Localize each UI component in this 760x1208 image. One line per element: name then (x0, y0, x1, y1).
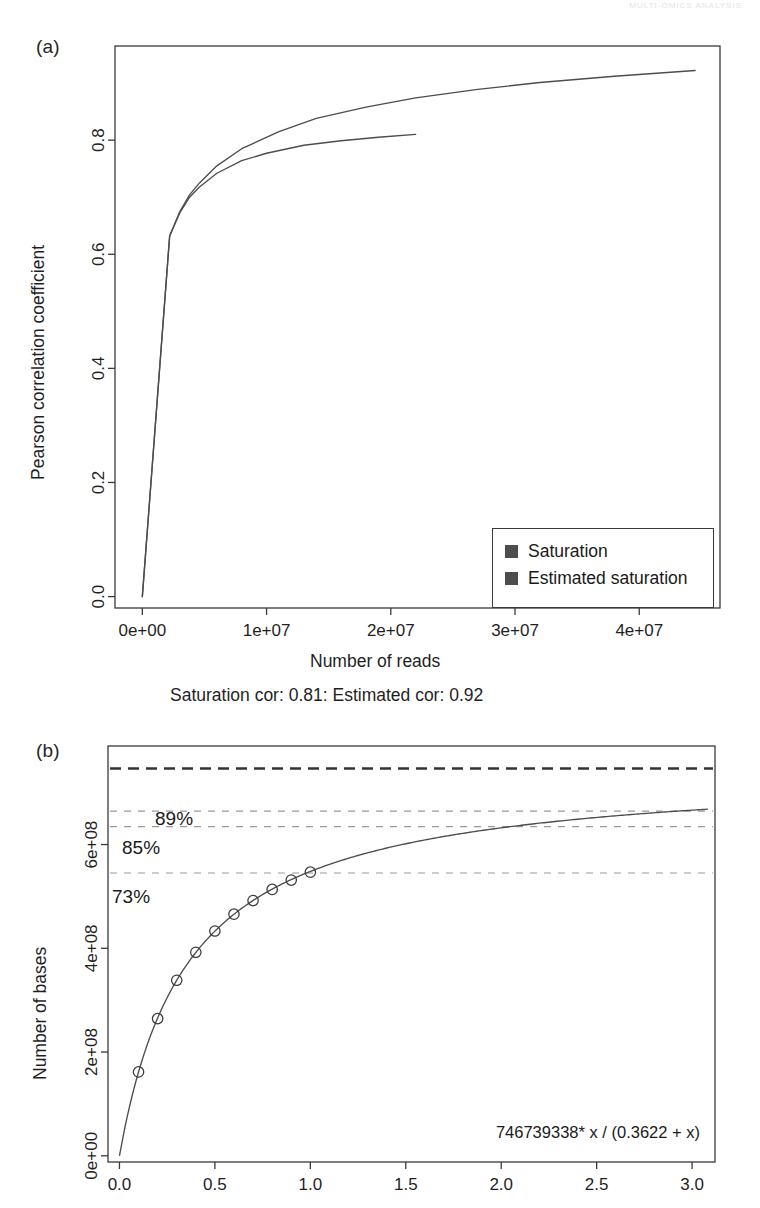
legend-swatch-saturation (505, 545, 518, 558)
panel-b-x-tick-label: 3.0 (680, 1175, 704, 1194)
panel-a-y-tick-label: 0.0 (90, 585, 109, 609)
panel-a-x-tick-label: 2e+07 (367, 621, 415, 640)
panel-b-curve-origin-segment (119, 1128, 124, 1156)
panel-b-axes-box (108, 746, 715, 1162)
legend-item-saturation: Saturation (505, 538, 699, 565)
panel-b-hline-label-89pct: 89% (155, 808, 193, 829)
legend-label-saturation: Saturation (528, 543, 608, 561)
panel-a-x-tick-label: 4e+07 (615, 621, 663, 640)
panel-b-formula-label: 746739338* x / (0.3622 + x) (496, 1123, 700, 1141)
panel-a-plot: 0e+001e+072e+073e+074e+070.00.20.40.60.8 (0, 0, 760, 718)
panel-b-y-tick-label: 4e+08 (83, 924, 102, 972)
panel-a-y-tick-label: 0.8 (90, 128, 109, 152)
panel-b-y-tick-label: 2e+08 (83, 1028, 102, 1076)
panel-b-y-tick-label: 6e+08 (83, 821, 102, 869)
panel-a-axes-box (115, 46, 720, 608)
panel-b-hline-label-73pct: 73% (112, 886, 150, 907)
panel-b-x-tick-label: 0.5 (203, 1175, 227, 1194)
panel-b-x-tick-label: 2.5 (585, 1175, 609, 1194)
panel-a-legend: Saturation Estimated saturation (492, 528, 714, 608)
panel-a-y-tick-label: 0.6 (90, 242, 109, 266)
panel-b-x-tick-label: 2.0 (489, 1175, 513, 1194)
legend-label-estimated-saturation: Estimated saturation (528, 570, 688, 588)
panel-a-x-tick-label: 0e+00 (118, 621, 166, 640)
figure-root: MULTI-OMICS ANALYSIS (a) Pearson correla… (0, 0, 760, 1208)
panel-b-hline-label-85pct: 85% (122, 837, 160, 858)
legend-swatch-estimated-saturation (505, 572, 518, 585)
panel-b-fitted-curve (125, 809, 708, 1128)
panel-b-y-tick-label: 0e+00 (83, 1132, 102, 1180)
legend-item-estimated-saturation: Estimated saturation (505, 565, 699, 592)
panel-b-x-tick-label: 0.0 (108, 1175, 132, 1194)
panel-b: (b) Number of bases 89%85%73%0.00.51.01.… (0, 718, 760, 1208)
panel-a-x-tick-label: 3e+07 (491, 621, 539, 640)
panel-b-x-tick-label: 1.5 (394, 1175, 418, 1194)
panel-a-y-tick-label: 0.4 (90, 357, 109, 381)
panel-a-series-saturation (142, 134, 415, 596)
panel-a-x-tick-label: 1e+07 (243, 621, 291, 640)
panel-a: (a) Pearson correlation coefficient Numb… (0, 0, 760, 718)
panel-a-y-tick-label: 0.2 (90, 471, 109, 495)
panel-a-series-estimated-saturation (142, 71, 695, 597)
panel-b-plot: 89%85%73%0.00.51.01.52.02.53.00e+002e+08… (0, 718, 760, 1208)
panel-b-x-tick-label: 1.0 (299, 1175, 323, 1194)
